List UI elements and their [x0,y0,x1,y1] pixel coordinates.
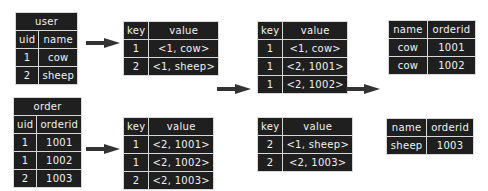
column-header: uid [16,31,39,49]
cell: cow [39,49,78,67]
column-header: name [389,21,428,39]
column-header: orderid [37,116,82,134]
cell: 1002 [428,57,476,75]
cell: <2, 1001> [283,58,348,76]
table-row: 2 <2, 1003> [258,154,353,172]
cell: 1 [258,58,283,76]
reduce-arrow-icon [346,84,380,94]
column-header: value [283,22,348,40]
shuffle-key2-table: key value 2 <1, sheep> 2 <2, 1003> [257,117,353,172]
cell: 1 [124,154,149,172]
cell: <2, 1003> [283,154,353,172]
cell: 2 [16,67,39,85]
cell: 1 [124,40,149,58]
cell: 1 [258,40,283,58]
cell: 1001 [428,39,476,57]
cell: 2 [258,136,283,154]
cell: 2 [258,154,283,172]
table-title: order [14,98,82,116]
cell: 2 [124,172,149,190]
cell: sheep [39,67,78,85]
table-row: 1 <2, 1002> [258,76,348,94]
cell: <2, 1002> [283,76,348,94]
cell: 2 [14,170,37,188]
table-title: user [16,13,78,31]
column-header: name [39,31,78,49]
column-header: orderid [428,21,476,39]
table-row: 1 <1, cow> [124,40,219,58]
column-header: value [149,118,214,136]
table-row: 1 1002 [14,152,82,170]
table-row: 1 <1, cow> [258,40,348,58]
result-key2-table: name orderid sheep 1003 [386,118,474,155]
cell: <1, cow> [283,40,348,58]
cell: 1 [258,76,283,94]
table-row: 1 1001 [14,134,82,152]
table-row: 1 <2, 1002> [124,154,214,172]
map-arrow-user-icon [86,38,120,48]
table-row: 1 <2, 1001> [124,136,214,154]
cell: 1 [14,152,37,170]
order-table: order uid orderid 1 1001 1 1002 2 1003 [13,97,82,188]
table-row: 2 <1, sheep> [258,136,353,154]
shuffle-key1-table: key value 1 <1, cow> 1 <2, 1001> 1 <2, 1… [257,21,348,94]
table-row: 2 <1, sheep> [124,58,219,76]
cell: 1 [14,134,37,152]
cell: <2, 1001> [149,136,214,154]
shuffle-arrow-icon [217,84,251,94]
cell: 1003 [37,170,82,188]
cell: 1 [16,49,39,67]
cell: cow [389,57,428,75]
user-table: user uid name 1 cow 2 sheep [15,12,78,85]
table-row: 2 1003 [14,170,82,188]
column-header: orderid [427,119,474,137]
column-header: key [258,118,283,136]
cell: <1, sheep> [149,58,219,76]
cell: 1002 [37,152,82,170]
map-order-table: key value 1 <2, 1001> 1 <2, 1002> 2 <2, … [123,117,214,190]
table-row: 2 <2, 1003> [124,172,214,190]
column-header: value [149,22,219,40]
cell: <2, 1002> [149,154,214,172]
table-row: sheep 1003 [387,137,474,155]
column-header: key [258,22,283,40]
cell: 1003 [427,137,474,155]
column-header: key [124,118,149,136]
cell: cow [389,39,428,57]
cell: 1001 [37,134,82,152]
cell: sheep [387,137,427,155]
column-header: name [387,119,427,137]
table-row: 1 cow [16,49,78,67]
table-row: cow 1001 [389,39,476,57]
cell: <1, sheep> [283,136,353,154]
map-arrow-order-icon [86,144,120,154]
column-header: uid [14,116,37,134]
result-key1-table: name orderid cow 1001 cow 1002 [388,20,476,75]
table-row: 1 <2, 1001> [258,58,348,76]
cell: <1, cow> [149,40,219,58]
column-header: value [283,118,353,136]
table-row: cow 1002 [389,57,476,75]
cell: 1 [124,136,149,154]
column-header: key [124,22,149,40]
map-user-table: key value 1 <1, cow> 2 <1, sheep> [123,21,219,76]
cell: <2, 1003> [149,172,214,190]
cell: 2 [124,58,149,76]
table-row: 2 sheep [16,67,78,85]
